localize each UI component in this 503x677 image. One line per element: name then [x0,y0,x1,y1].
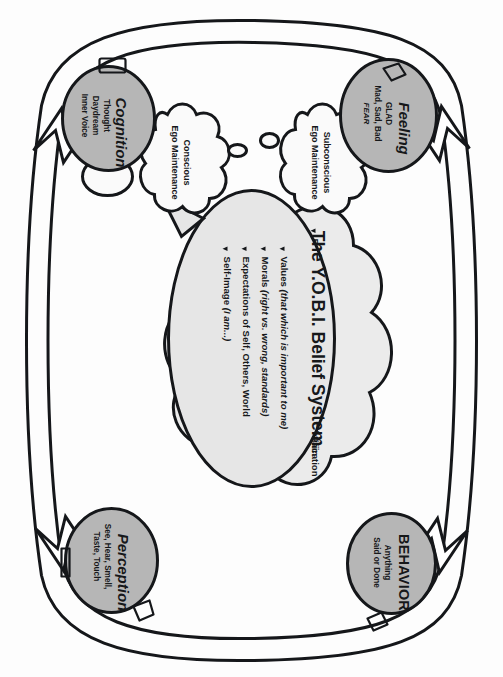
belief-bullet-3-text: Self-Image (I am...) [221,256,232,341]
belief-bullet-3: Self-Image (I am...) [221,246,232,341]
node-behavior-line2: Said or Done [371,537,380,588]
belief-bullet-2: Expectations of Self, Others, World [240,246,251,416]
belief-bullet-2-text: Expectations of Self, Others, World [240,256,251,416]
node-behavior-title: BEHAVIOR [395,533,411,610]
conscious-cloud-line2: Ego Maintenance [169,125,179,199]
node-cognition-line3: Inner Voice [79,93,88,137]
belief-bullet-0-text: Values (that which is important to me) [278,256,289,429]
node-perception-line2: Taste, Touch [91,531,100,580]
node-feeling-line1: GLAD [383,101,392,124]
node-feeling-line3: FEAR [361,102,370,124]
node-cognition-title: Cognition [112,97,129,167]
diagram-canvas: The Ego Agenda Minimize Emotional & Phys… [0,0,503,677]
node-feeling-line2: Mad, Sad, Bad [372,85,381,141]
node-perception-title: Perception [114,533,131,611]
node-cognition-line2: Daydream [90,95,99,135]
diagram-figure: The Ego Agenda Minimize Emotional & Phys… [0,0,503,677]
belief-bullet-1: Morals (right vs. wrong, standards) [259,246,270,416]
subconscious-cloud-line2: Ego Maintenance [309,125,319,199]
node-behavior-line1: Anything [382,544,391,579]
belief-bullet-0: Values (that which is important to me) [278,246,289,429]
node-cognition-line1: Thought [101,99,110,132]
node-feeling-title: Feeling [395,102,412,155]
subconscious-cloud-line1: Subconscious [321,131,331,193]
node-perception-line1: See, Hear, Smell, [102,523,111,589]
belief-system-title: The Y.O.B.I. Belief System [307,230,327,446]
conscious-cloud-line1: Conscious [181,139,191,185]
belief-bullet-1-text: Morals (right vs. wrong, standards) [259,256,270,416]
